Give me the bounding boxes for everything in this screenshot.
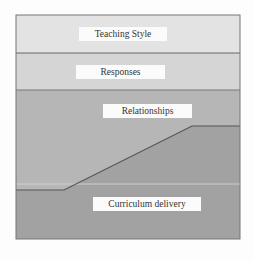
label-teaching-style: Teaching Style xyxy=(79,27,167,41)
label-responses: Responses xyxy=(76,65,165,79)
label-relationships: Relationships xyxy=(103,104,192,118)
label-curriculum-delivery: Curriculum delivery xyxy=(93,197,201,211)
